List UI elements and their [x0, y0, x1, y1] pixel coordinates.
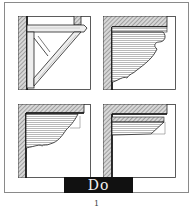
wedge-bracket-illustration — [103, 104, 176, 178]
scroll-bracket-illustration — [103, 16, 176, 90]
panel-top-left — [18, 16, 91, 90]
do-label-text: Do — [88, 177, 110, 193]
panel-top-right — [103, 16, 176, 90]
page-number: 1 — [0, 199, 193, 208]
do-label: Do — [64, 177, 133, 193]
panel-bottom-left — [18, 104, 91, 178]
timber-bracket-illustration — [18, 16, 91, 90]
curved-bracket-illustration — [18, 104, 91, 178]
panel-bottom-right — [103, 104, 176, 178]
